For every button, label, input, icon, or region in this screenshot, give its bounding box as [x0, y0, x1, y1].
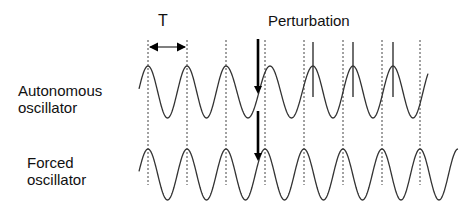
perturbation-arrowhead-top [254, 86, 262, 94]
reference-dotted-lines [148, 40, 420, 185]
perturbation-arrowhead-bottom [254, 153, 262, 161]
oscillator-diagram [0, 0, 469, 212]
phase-marker-ticks [313, 42, 393, 97]
autonomous-wave [139, 66, 428, 118]
